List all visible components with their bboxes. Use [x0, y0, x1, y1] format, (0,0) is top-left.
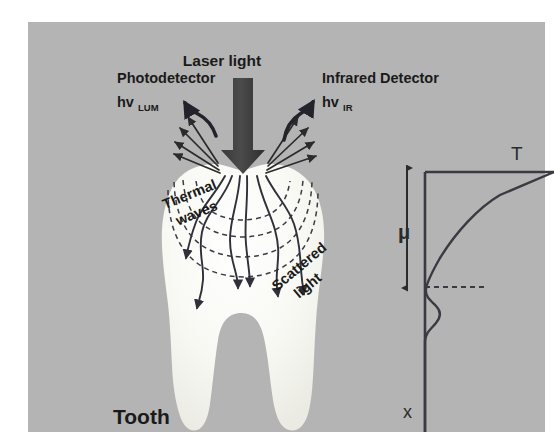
optical-absorption-label: µ	[398, 220, 410, 243]
figure-root: Laser light Photodetector hv LUM Infrare…	[0, 0, 554, 446]
tooth-photothermal-diagram: Laser light Photodetector hv LUM Infrare…	[0, 0, 554, 446]
photodetector-symbol-main: hv	[117, 94, 134, 110]
infrared-symbol-main: hv	[322, 94, 339, 110]
photodetector-symbol-subscript: LUM	[138, 102, 159, 113]
tooth-label: Tooth	[113, 405, 170, 428]
laser-light-label: Laser light	[183, 52, 261, 69]
temperature-axis-label: T	[511, 143, 523, 164]
infrared-symbol-subscript: IR	[343, 102, 353, 113]
infrared-detector-label: Infrared Detector	[322, 70, 439, 86]
depth-axis-label: x	[403, 402, 412, 422]
photodetector-label: Photodetector	[117, 70, 216, 86]
